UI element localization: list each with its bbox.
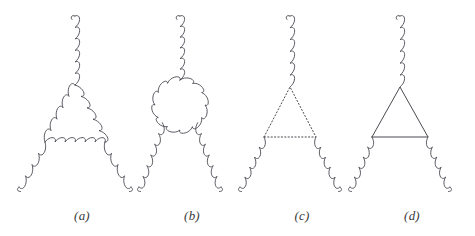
- panel-label-a: (a): [62, 208, 102, 224]
- gluon-leg-top-d: [400, 15, 405, 87]
- gluon-leg-top-hook-b: [176, 16, 180, 20]
- gluon-leg-bottom-left-a: [19, 142, 46, 189]
- feynman-diagrams-canvas: [0, 0, 475, 236]
- gluon-loop-side-left-a: [44, 83, 75, 142]
- gluon-loop-side-right-a: [75, 85, 108, 142]
- gluon-leg-top-hook-c: [286, 16, 290, 20]
- gluon-leg-bottom-right-c: [315, 137, 340, 189]
- gluon-leg-bottom-right-a: [104, 142, 131, 189]
- ghost-loop-triangle-c: [264, 87, 316, 137]
- panel-label-c: (c): [282, 208, 322, 224]
- gluon-leg-bottom-left-c: [240, 137, 265, 189]
- gluon-leg-bottom-right-d: [426, 137, 450, 188]
- gluon-leg-top-a: [75, 15, 80, 85]
- gluon-leg-top-hook-d: [396, 16, 400, 20]
- gluon-leg-bottom-left-d: [350, 137, 374, 188]
- diagram-panel-b: [137, 16, 222, 192]
- gluon-leg-top-b: [180, 16, 185, 80]
- gluon-leg-bottom-right-b: [196, 123, 221, 189]
- panel-label-b: (b): [172, 208, 212, 224]
- gluon-loop-circle-b: [152, 77, 209, 134]
- gluon-loop-side-bottom-a: [45, 138, 105, 142]
- gluon-leg-top-hook-a: [71, 16, 75, 20]
- quark-loop-triangle-d: [372, 87, 428, 137]
- panel-label-d: (d): [392, 208, 432, 224]
- gluon-leg-bottom-left-b: [139, 123, 164, 189]
- diagram-panel-c: [238, 15, 341, 191]
- diagram-panel-a: [17, 15, 132, 191]
- gluon-leg-top-c: [290, 15, 295, 87]
- diagram-panel-d: [348, 15, 451, 191]
- feynman-diagram-figure: (a) (b) (c) (d): [0, 0, 475, 236]
